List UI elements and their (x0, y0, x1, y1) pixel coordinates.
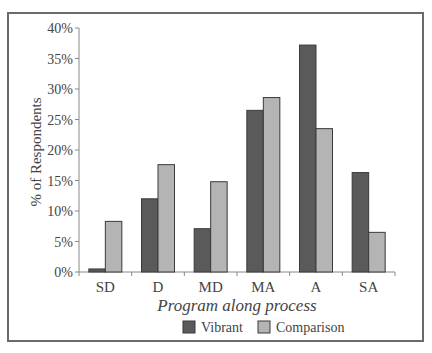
bar-vibrant-sd (89, 269, 106, 272)
y-tick-label: 25% (47, 113, 73, 128)
y-tick-label: 10% (47, 204, 73, 219)
legend-label-vibrant: Vibrant (201, 320, 243, 335)
bar-vibrant-d (142, 199, 159, 272)
bar-vibrant-md (194, 229, 211, 272)
bar-vibrant-sa (352, 173, 369, 272)
bar-chart: 0%5%10%15%20%25%30%35%40% SDDMDMAASA % o… (0, 0, 432, 353)
y-tick-label: 0% (54, 265, 73, 280)
x-category-label: A (311, 279, 322, 295)
y-axis-title: % of Respondents (28, 97, 44, 206)
y-axis: 0%5%10%15%20%25%30%35%40% (47, 21, 79, 280)
legend-swatch-comparison (258, 321, 270, 333)
bar-comparison-d (158, 165, 175, 272)
legend-swatch-vibrant (183, 321, 195, 333)
y-tick-label: 35% (47, 52, 73, 67)
y-tick-label: 20% (47, 143, 73, 158)
x-category-label: MA (251, 279, 275, 295)
bar-comparison-sd (105, 221, 122, 272)
x-category-label: SD (96, 279, 115, 295)
x-category-label: D (153, 279, 164, 295)
y-tick-label: 15% (47, 174, 73, 189)
legend: VibrantComparison (183, 320, 344, 335)
bar-comparison-md (211, 182, 228, 272)
bar-comparison-ma (263, 98, 280, 272)
bar-vibrant-ma (247, 110, 263, 272)
bar-vibrant-a (300, 45, 317, 272)
x-axis: SDDMDMAASA (79, 272, 395, 295)
x-axis-title: Program along process (156, 296, 317, 315)
x-category-label: SA (359, 279, 378, 295)
bars (89, 45, 385, 272)
y-tick-label: 40% (47, 21, 73, 36)
legend-label-comparison: Comparison (276, 320, 344, 335)
bar-comparison-a (316, 129, 333, 272)
y-tick-label: 30% (47, 82, 73, 97)
bar-comparison-sa (369, 232, 386, 272)
y-tick-label: 5% (54, 235, 73, 250)
x-category-label: MD (199, 279, 223, 295)
